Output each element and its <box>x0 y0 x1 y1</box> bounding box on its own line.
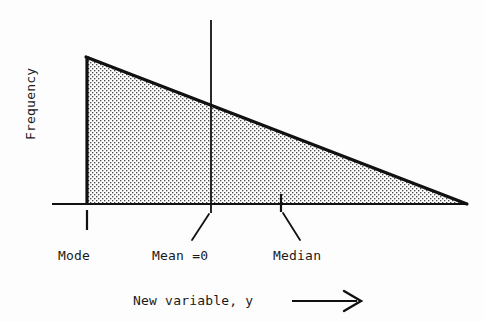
median-leader-line <box>283 213 300 240</box>
y-axis-title: Frequency <box>24 100 37 140</box>
mean-label: Mean =0 <box>152 249 208 262</box>
distribution-figure <box>0 0 484 322</box>
mean-leader-line <box>192 214 209 240</box>
x-axis-title: New variable, y <box>133 294 253 307</box>
median-label: Median <box>273 249 321 262</box>
figure-container: Frequency Mode Mean =0 Median New variab… <box>0 0 484 322</box>
mode-label: Mode <box>58 249 90 262</box>
